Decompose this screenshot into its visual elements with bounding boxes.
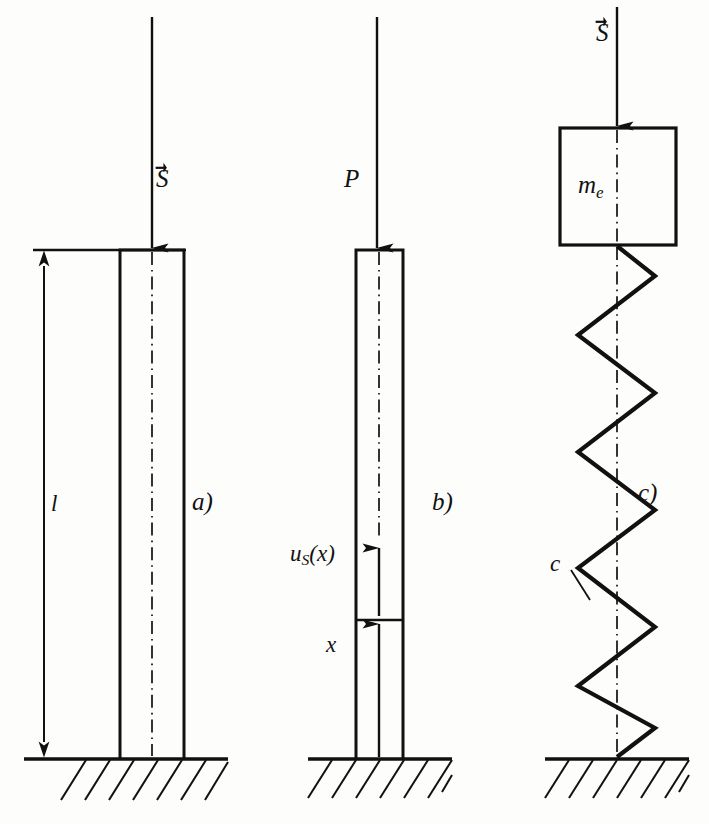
panel-a-load-symbol: S xyxy=(156,165,169,192)
panel-a-dimension-arrowhead-top xyxy=(39,251,50,267)
panel-b-displacement-symbol: u xyxy=(290,541,302,566)
panel-a-length-label: l xyxy=(51,492,57,515)
panel-c-ground-hatching xyxy=(545,760,689,798)
panel-a-ground-hatching xyxy=(61,760,228,800)
panel-c-mass-symbol: m xyxy=(578,171,596,198)
panel-b-group xyxy=(308,17,452,798)
panel-c-load-symbol: S xyxy=(596,19,609,46)
panel-a-group xyxy=(24,17,228,800)
figure-drawing xyxy=(0,0,709,824)
panel-b-ground-hatching xyxy=(308,760,452,798)
panel-c-load-label: S xyxy=(596,20,609,45)
panel-b-displacement-argument: (x) xyxy=(309,541,335,566)
panel-b-coordinate-label: x xyxy=(326,633,336,656)
figure-root: S l a) P uS(x) x b) S me c c) xyxy=(0,0,709,824)
panel-a-load-label: S xyxy=(156,166,169,191)
panel-b-displacement-label: uS(x) xyxy=(290,542,335,568)
panel-c-mass-label: me xyxy=(578,172,604,201)
vector-S-a: S xyxy=(156,166,169,191)
panel-c-spring-label: c xyxy=(550,552,560,575)
panel-b-caption: b) xyxy=(432,489,453,514)
panel-a-dimension-arrowhead-bottom xyxy=(39,742,50,758)
panel-c-caption: c) xyxy=(638,480,657,505)
panel-c-mass-subscript: e xyxy=(596,183,604,202)
vector-S-c: S xyxy=(596,20,609,45)
panel-b-load-label: P xyxy=(344,166,359,191)
panel-c-group xyxy=(545,7,689,798)
panel-a-caption: a) xyxy=(192,489,213,514)
